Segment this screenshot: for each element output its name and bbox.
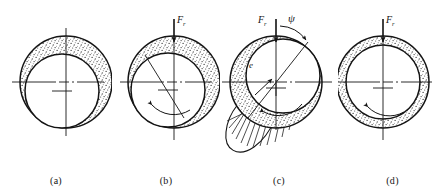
panel-b: Fr (b) <box>112 0 220 193</box>
panel-d-drawing <box>338 0 447 193</box>
journal-outline-c <box>246 39 320 113</box>
panel-c-drawing <box>220 0 338 193</box>
caption-d: (d) <box>338 175 447 186</box>
caption-c: (c) <box>220 175 338 186</box>
load-label-c: Fr <box>258 15 267 28</box>
panel-c: Fr ψ e (c) <box>220 0 338 193</box>
load-label-d: Fr <box>386 15 395 28</box>
attitude-angle-label-c: ψ <box>288 13 295 24</box>
caption-b: (b) <box>112 175 220 186</box>
eccentricity-label-c: e <box>249 61 253 70</box>
panel-a-drawing <box>0 0 112 193</box>
panel-b-drawing <box>112 0 220 193</box>
load-label-b: Fr <box>177 15 186 28</box>
bearing-lubrication-figure: (a) Fr (b) <box>0 0 447 193</box>
caption-a: (a) <box>0 175 112 186</box>
panel-d: Fr (d) <box>338 0 447 193</box>
panel-a: (a) <box>0 0 112 193</box>
